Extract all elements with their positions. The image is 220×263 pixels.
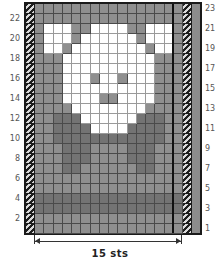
stitch-cell — [91, 224, 100, 234]
stitch-cell — [100, 174, 109, 184]
stitch-cell — [54, 154, 63, 164]
stitch-cell — [35, 184, 44, 194]
stitch-cell — [35, 124, 44, 134]
stitch-cell — [109, 204, 118, 214]
stitch-cell — [35, 204, 44, 214]
stitch-cell — [44, 24, 53, 34]
stitch-cell — [118, 224, 127, 234]
edge-hatch-cell — [183, 14, 192, 24]
stitch-cell — [128, 114, 137, 124]
edge-hatch-cell — [26, 164, 35, 174]
edge-hatch-cell — [183, 164, 192, 174]
stitch-cell — [146, 94, 155, 104]
row-number-label: 6 — [4, 174, 20, 184]
edge-hatch-cell — [26, 124, 35, 134]
stitch-cell — [91, 4, 100, 14]
stitch-cell — [128, 94, 137, 104]
stitch-cell — [63, 224, 72, 234]
stitch-cell — [91, 194, 100, 204]
stitch-cell — [146, 224, 155, 234]
stitch-cell — [174, 24, 183, 34]
edge-hatch-cell — [183, 174, 192, 184]
stitch-cell — [63, 144, 72, 154]
stitch-cell — [118, 164, 127, 174]
stitch-cell — [137, 44, 146, 54]
stitch-cell — [128, 194, 137, 204]
stitch-cell — [35, 194, 44, 204]
stitch-cell — [118, 94, 127, 104]
stitch-cell — [63, 124, 72, 134]
stitch-cell — [44, 104, 53, 114]
stitch-cell — [137, 164, 146, 174]
edge-hatch-cell — [26, 44, 35, 54]
stitch-cell — [100, 94, 109, 104]
stitch-cell — [72, 204, 81, 214]
stitch-cell — [72, 134, 81, 144]
stitch-cell — [63, 214, 72, 224]
stitch-cell — [137, 154, 146, 164]
edge-hatch-cell — [26, 34, 35, 44]
edge-hatch-cell — [183, 34, 192, 44]
edge-hatch-cell — [183, 84, 192, 94]
stitch-cell — [35, 34, 44, 44]
stitch-cell — [44, 204, 53, 214]
stitch-cell — [81, 184, 90, 194]
stitch-cell — [100, 84, 109, 94]
edge-hatch-cell — [183, 4, 192, 14]
stitch-cell — [174, 144, 183, 154]
stitch-cell — [155, 94, 164, 104]
knitting-chart — [24, 2, 202, 235]
stitch-cell — [81, 224, 90, 234]
edge-hatch-cell — [183, 104, 192, 114]
row-number-label: 12 — [4, 114, 20, 124]
stitch-cell — [100, 164, 109, 174]
stitch-cell — [63, 94, 72, 104]
stitch-cell — [81, 124, 90, 134]
row-number-label: 15 — [205, 84, 219, 94]
stitch-cell — [72, 104, 81, 114]
row-number-label: 1 — [205, 224, 219, 234]
stitch-cell — [109, 144, 118, 154]
stitch-cell — [91, 84, 100, 94]
stitch-cell — [44, 174, 53, 184]
stitch-cell — [72, 34, 81, 44]
edge-hatch-cell — [26, 134, 35, 144]
stitch-cell — [109, 134, 118, 144]
stitch-cell — [174, 154, 183, 164]
stitch-cell — [91, 134, 100, 144]
stitch-cell — [54, 164, 63, 174]
stitch-cell — [54, 74, 63, 84]
row-number-label: 2 — [4, 214, 20, 224]
stitch-cell — [35, 144, 44, 154]
stitch-cell — [100, 44, 109, 54]
stitch-cell — [100, 24, 109, 34]
stitch-cell — [155, 174, 164, 184]
edge-hatch-cell — [26, 114, 35, 124]
stitch-cell — [44, 194, 53, 204]
stitch-cell — [118, 124, 127, 134]
stitch-cell — [35, 44, 44, 54]
stitch-cell — [91, 144, 100, 154]
edge-hatch-cell — [26, 184, 35, 194]
stitch-cell — [174, 194, 183, 204]
stitch-cell — [155, 124, 164, 134]
stitch-cell — [35, 84, 44, 94]
stitch-cell — [100, 14, 109, 24]
edge-hatch-cell — [26, 154, 35, 164]
stitch-cell — [72, 124, 81, 134]
stitch-cell — [54, 224, 63, 234]
edge-hatch-cell — [26, 204, 35, 214]
stitch-cell — [146, 24, 155, 34]
row-number-label: 8 — [4, 154, 20, 164]
stitch-cell — [174, 204, 183, 214]
stitch-cell — [63, 104, 72, 114]
stitch-cell — [137, 214, 146, 224]
stitch-cell — [137, 94, 146, 104]
edge-hatch-cell — [183, 114, 192, 124]
stitch-cell — [137, 134, 146, 144]
stitch-cell — [118, 104, 127, 114]
stitch-cell — [63, 4, 72, 14]
stitch-cell — [44, 74, 53, 84]
stitch-cell — [81, 134, 90, 144]
stitch-cell — [35, 64, 44, 74]
